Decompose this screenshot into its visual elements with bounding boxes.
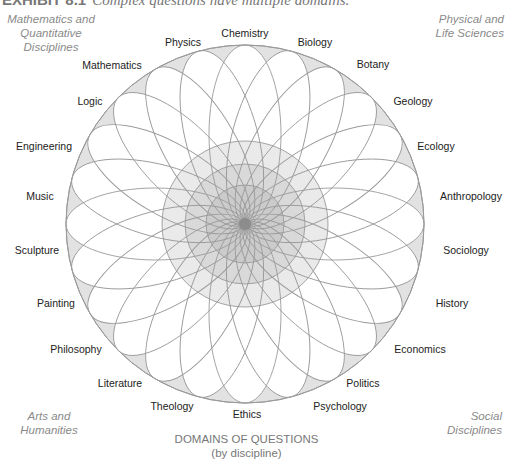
discipline-label-mathematics: Mathematics xyxy=(82,59,142,71)
discipline-label-sociology: Sociology xyxy=(443,244,489,256)
discipline-label-ethics: Ethics xyxy=(233,408,262,420)
discipline-label-literature: Literature xyxy=(98,377,143,389)
discipline-label-biology: Biology xyxy=(298,36,333,48)
discipline-label-sculpture: Sculpture xyxy=(15,244,60,256)
discipline-label-engineering: Engineering xyxy=(16,140,72,152)
discipline-label-ecology: Ecology xyxy=(417,140,455,152)
discipline-label-politics: Politics xyxy=(346,377,379,389)
discipline-label-psychology: Psychology xyxy=(313,400,367,412)
discipline-label-music: Music xyxy=(26,190,53,202)
discipline-label-botany: Botany xyxy=(357,58,390,70)
rosette-diagram: ChemistryBiologyBotanyGeologyEcologyAnth… xyxy=(0,0,505,463)
discipline-label-anthropology: Anthropology xyxy=(440,190,503,202)
discipline-label-painting: Painting xyxy=(37,297,75,309)
discipline-label-history: History xyxy=(436,297,469,309)
discipline-label-logic: Logic xyxy=(77,95,102,107)
discipline-label-geology: Geology xyxy=(393,95,433,107)
discipline-label-philosophy: Philosophy xyxy=(50,343,102,355)
center-core xyxy=(239,218,251,230)
domains-diagram-figure: EXHIBIT 8.1Complex questions have multip… xyxy=(0,0,505,463)
discipline-label-physics: Physics xyxy=(165,36,201,48)
discipline-label-economics: Economics xyxy=(394,343,445,355)
discipline-label-chemistry: Chemistry xyxy=(221,27,269,39)
discipline-label-theology: Theology xyxy=(150,400,194,412)
